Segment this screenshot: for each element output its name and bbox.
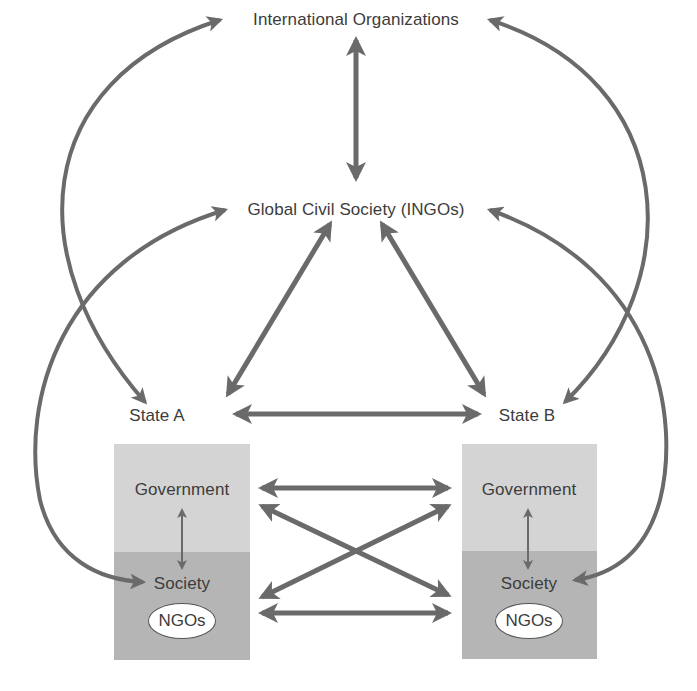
- state-b-ngos-ellipse: NGOs: [495, 603, 563, 639]
- state-society-relations-diagram: International Organizations Global Civil…: [0, 0, 697, 691]
- global-civil-society-label: Global Civil Society (INGOs): [247, 200, 464, 220]
- arrow-gcs-societyb-arc: [490, 210, 666, 580]
- arrow-io-statea-arc: [490, 20, 648, 402]
- state-b-society-label: Society: [501, 574, 557, 594]
- state-b-label: State B: [499, 406, 555, 426]
- arrow-gcs-societya-arc: [35, 210, 225, 582]
- state-a-government-label: Government: [135, 480, 230, 500]
- arrow-io-stateb-arc: [62, 20, 220, 402]
- arrow-gcs-statea: [228, 224, 330, 394]
- international-organizations-label: International Organizations: [253, 10, 459, 30]
- state-a-label: State A: [129, 406, 185, 426]
- state-a-ngos-ellipse: NGOs: [148, 603, 216, 639]
- arrows-layer: [0, 0, 697, 691]
- arrow-gcs-stateb: [382, 224, 484, 394]
- state-a-society-label: Society: [154, 574, 210, 594]
- state-b-government-label: Government: [482, 480, 577, 500]
